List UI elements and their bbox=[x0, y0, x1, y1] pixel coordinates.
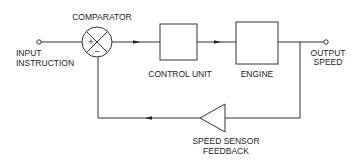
control-unit-label: CONTROL UNIT bbox=[148, 69, 211, 79]
speed-sensor-triangle-icon bbox=[200, 104, 225, 132]
sensor-label: SPEED SENSOR bbox=[192, 136, 259, 146]
feedback-left-line bbox=[98, 57, 200, 118]
output-terminal bbox=[324, 40, 328, 44]
input-terminal bbox=[37, 40, 41, 44]
comparator-label: COMPARATOR bbox=[72, 12, 132, 22]
engine-box bbox=[236, 22, 278, 64]
input-label-line2: INSTRUCTION bbox=[16, 58, 74, 68]
output-label-line2: SPEED bbox=[314, 57, 343, 67]
minus-sign: − bbox=[94, 46, 99, 56]
sensor-label-line2: FEEDBACK bbox=[203, 146, 249, 156]
arrow-left-icon bbox=[145, 116, 152, 119]
input-label: INPUT bbox=[16, 48, 42, 58]
plus-sign: + bbox=[88, 37, 93, 47]
arrow-right-icon bbox=[133, 40, 140, 43]
block-diagram: COMPARATOR + − INPUT INSTRUCTION CONTROL… bbox=[0, 0, 357, 161]
control-unit-box bbox=[160, 24, 197, 60]
arrow-right-icon bbox=[214, 40, 221, 43]
engine-label: ENGINE bbox=[241, 69, 274, 79]
